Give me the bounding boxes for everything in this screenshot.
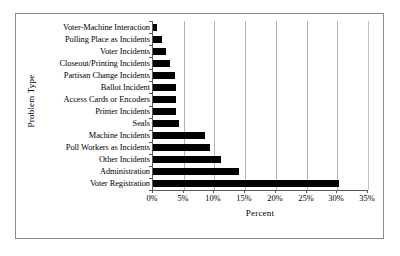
bar — [153, 72, 175, 79]
bar — [153, 48, 166, 55]
gridline-25% — [307, 21, 308, 190]
y-axis-tick-label: Closeout/Printing Incidents — [34, 59, 150, 68]
y-axis-tickmark — [149, 154, 152, 155]
gridline-15% — [245, 21, 246, 190]
bar — [153, 36, 162, 43]
y-axis-tick-label: Access Cards or Encoders — [34, 95, 150, 104]
y-axis-tickmark — [149, 130, 152, 131]
gridline-35% — [368, 21, 369, 190]
x-axis-tickmark — [244, 190, 245, 193]
bar — [153, 120, 179, 127]
y-axis-tickmark — [149, 69, 152, 70]
gridline-20% — [276, 21, 277, 190]
y-axis-tickmark — [149, 106, 152, 107]
x-axis-tickmark — [336, 190, 337, 193]
bar — [153, 156, 221, 163]
bar — [153, 24, 157, 31]
y-axis-tickmark — [149, 57, 152, 58]
y-axis-tick-label: Polling Place as Incidents — [34, 35, 150, 44]
bar — [153, 132, 205, 139]
y-axis-tick-label: Poll Workers as Incidents — [34, 143, 150, 152]
bar — [153, 96, 176, 103]
y-axis-tick-label: Partisan Change Incidents — [34, 71, 150, 80]
y-axis-tickmark — [149, 178, 152, 179]
y-axis-tickmark — [149, 45, 152, 46]
y-axis-tickmark — [149, 142, 152, 143]
chart-figure: Problem Type Voter-Machine InteractionPo… — [0, 0, 400, 256]
bar — [153, 60, 170, 67]
x-axis-tickmark — [367, 190, 368, 193]
y-axis-tickmark — [149, 33, 152, 34]
x-axis-tickmark — [183, 190, 184, 193]
y-axis-tick-label: Voter Registration — [34, 179, 150, 188]
y-axis-tick-label: Other Incidents — [34, 155, 150, 164]
y-axis-tickmarks — [149, 21, 152, 190]
gridline-10% — [214, 21, 215, 190]
bar — [153, 168, 239, 175]
y-axis-tickmark — [149, 93, 152, 94]
x-axis-tickmark — [306, 190, 307, 193]
y-axis-tick-label: Seals — [34, 119, 150, 128]
x-axis-tickmark — [213, 190, 214, 193]
bar — [153, 144, 210, 151]
y-axis-tickmark — [149, 118, 152, 119]
y-axis-tick-label: Voter-Machine Interaction — [34, 23, 150, 32]
gridline-5% — [184, 21, 185, 190]
y-axis-tickmark — [149, 21, 152, 22]
x-axis-tick-labels: 0%5%10%15%20%25%30%35% — [0, 194, 400, 206]
bar — [153, 108, 176, 115]
x-axis-tick-label: 35% — [347, 194, 387, 204]
y-axis-tick-label: Administration — [34, 167, 150, 176]
y-axis-tickmark — [149, 166, 152, 167]
y-axis-tick-label: Printer Incidents — [34, 107, 150, 116]
bar — [153, 180, 339, 187]
y-axis-tick-label: Ballot Incident — [34, 83, 150, 92]
y-axis-tick-labels: Voter-Machine InteractionPolling Place a… — [34, 21, 150, 190]
y-axis-tick-label: Machine Incidents — [34, 131, 150, 140]
plot-area — [152, 21, 368, 191]
y-axis-tick-label: Voter Incidents — [34, 47, 150, 56]
gridline-30% — [337, 21, 338, 190]
x-axis-title: Percent — [152, 208, 368, 218]
x-axis-tickmark — [275, 190, 276, 193]
y-axis-tickmark — [149, 81, 152, 82]
bar — [153, 84, 176, 91]
x-axis-tickmark — [152, 190, 153, 193]
